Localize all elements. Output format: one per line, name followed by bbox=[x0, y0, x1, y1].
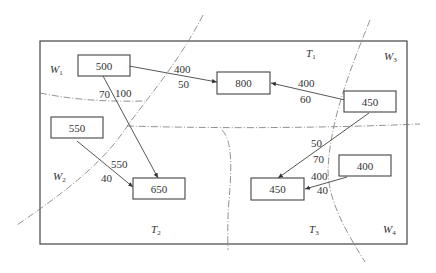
edge-label: 70 bbox=[313, 153, 325, 165]
node-value: 550 bbox=[69, 122, 86, 134]
region-label-w2: W2 bbox=[53, 170, 66, 184]
edge-500-to-800 bbox=[129, 66, 217, 82]
node-400: 400 bbox=[339, 155, 391, 176]
node-value: 500 bbox=[96, 60, 113, 72]
boundary-line-w3w4-t bbox=[328, 20, 370, 262]
edge-label: 40 bbox=[101, 172, 113, 184]
region-label-t2: T2 bbox=[151, 223, 161, 237]
node-value: 450 bbox=[269, 183, 286, 195]
edge-label: 550 bbox=[111, 158, 128, 170]
node-800: 800 bbox=[217, 72, 270, 94]
node-450-w3: 450 bbox=[344, 91, 396, 112]
edge-label: 60 bbox=[300, 93, 312, 105]
node-550: 550 bbox=[51, 117, 103, 138]
node-650: 650 bbox=[133, 178, 185, 199]
edge-label: 400 bbox=[298, 77, 315, 89]
region-label-t3: T3 bbox=[309, 223, 319, 237]
node-value: 400 bbox=[357, 160, 374, 172]
edge-label: 100 bbox=[115, 87, 132, 99]
region-label-w3: W3 bbox=[384, 50, 397, 64]
region-label-t1: T1 bbox=[306, 47, 316, 61]
edge-label: 40 bbox=[317, 184, 329, 196]
boundary-line-t1-lower bbox=[127, 124, 420, 128]
node-450-t3: 450 bbox=[251, 178, 304, 200]
node-value: 800 bbox=[235, 77, 252, 89]
node-value: 650 bbox=[151, 183, 168, 195]
node-500: 500 bbox=[78, 55, 130, 76]
node-value: 450 bbox=[362, 96, 379, 108]
edge-label: 400 bbox=[311, 170, 328, 182]
edge-label: 400 bbox=[174, 63, 191, 75]
transport-network-diagram: 500 550 800 650 450 400 450 400 50 100 7… bbox=[0, 0, 436, 273]
boundary-line-t2-t3 bbox=[222, 130, 231, 250]
region-label-w1: W1 bbox=[50, 63, 63, 77]
edge-label: 70 bbox=[99, 88, 111, 100]
region-label-w4: W4 bbox=[383, 223, 396, 237]
edge-label: 50 bbox=[311, 137, 323, 149]
edge-label: 50 bbox=[178, 78, 190, 90]
